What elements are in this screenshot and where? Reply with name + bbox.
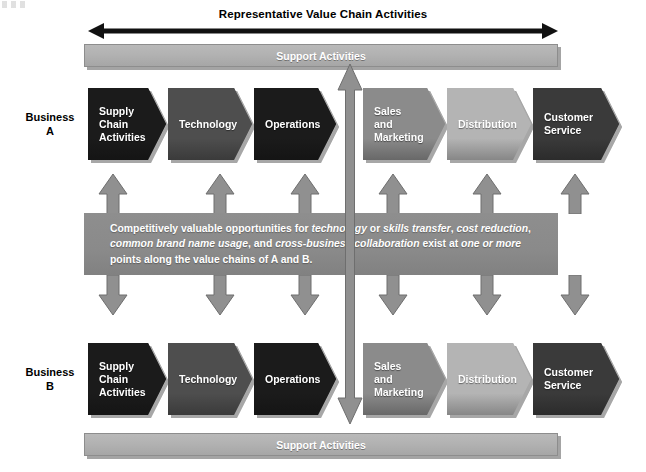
chevron-label: CustomerService [533,366,613,392]
connector-arrow-up-icon [205,174,235,214]
chevron-label: SupplyChainActivities [88,360,166,399]
chevron-label-line: Chain [99,118,128,130]
chevron-label: Technology [168,373,257,386]
txt-i6: one or more [461,238,521,249]
connector-arrow-up-icon [290,174,320,214]
connector-arrow-down-icon [378,275,408,315]
txt-p5: , and [248,238,275,249]
txt-p6: exist at [420,238,462,249]
chevron-label-line: and [374,118,393,130]
txt-i3: cost reduction [456,223,528,234]
connector-arrow-down-icon [205,275,235,315]
value-chain-activity-chevron: Distribution [447,343,531,415]
chevron-label-line: Operations [265,373,320,385]
value-chain-activity-chevron: Technology [168,343,252,415]
value-chain-activity-chevron: CustomerService [533,343,619,415]
chevron-label-line: Distribution [458,373,517,385]
chevron-label: SalesandMarketing [363,360,444,399]
shared-opportunity-text: Competitively valuable opportunities for… [110,221,532,268]
connector-arrow-up-icon [98,174,128,214]
chevron-label-line: Activities [99,131,146,143]
connector-arrow-up-icon [378,174,408,214]
connector-arrow-up-icon [560,174,590,214]
value-chain-activity-chevron: Operations [254,343,336,415]
value-chain-activity-chevron: Technology [168,88,252,160]
chevron-label: SalesandMarketing [363,105,444,144]
chevron-label: CustomerService [533,111,613,137]
txt-p2: or [367,223,383,234]
chevron-label-line: Chain [99,373,128,385]
shared-opportunity-box: Competitively valuable opportunities for… [84,213,558,275]
value-chain-activity-chevron: SupplyChainActivities [88,343,166,415]
horizontal-double-arrow-icon [88,22,558,40]
value-chain-activity-chevron: Operations [254,88,336,160]
connector-arrow-down-icon [472,275,502,315]
support-activities-label-bottom: Support Activities [276,439,365,451]
chevron-label-line: Customer [544,366,593,378]
page-title: Representative Value Chain Activities [0,8,646,20]
chevron-label-line: Marketing [374,386,424,398]
chevron-label-line: Customer [544,111,593,123]
chevron-label-line: Marketing [374,131,424,143]
chevron-label-line: Technology [179,373,237,385]
chevron-label: Operations [254,118,340,131]
chevron-label-line: Operations [265,118,320,130]
chevron-label-line: Distribution [458,118,517,130]
chevron-label: Operations [254,373,340,386]
scan-artifact [2,1,28,8]
chevron-label-line: Activities [99,386,146,398]
chevron-label-line: Supply [99,105,134,117]
chevron-label-line: Sales [374,360,401,372]
txt-i4: common brand name usage [110,238,248,249]
value-chain-activity-chevron: SalesandMarketing [363,88,445,160]
support-activities-bar-bottom: Support Activities [84,433,558,456]
central-vertical-double-arrow-icon [337,64,363,424]
chevron-label-line: Sales [374,105,401,117]
support-activities-label-top: Support Activities [276,50,365,62]
chevron-label-line: and [374,373,393,385]
value-chain-activity-chevron: SalesandMarketing [363,343,445,415]
value-chain-diagram: Representative Value Chain Activities Su… [0,0,646,472]
business-a-value-chain-row: SupplyChainActivitiesTechnologyOperation… [0,88,646,160]
chevron-label-line: Service [544,379,581,391]
support-activities-bar-top: Support Activities [84,44,558,67]
connector-arrow-down-icon [560,275,590,315]
chevron-label-line: Service [544,124,581,136]
txt-p4: , [528,223,531,234]
value-chain-activity-chevron: SupplyChainActivities [88,88,166,160]
connector-arrow-down-icon [98,275,128,315]
connector-arrow-up-icon [472,174,502,214]
value-chain-activity-chevron: CustomerService [533,88,619,160]
txt-p7: points along the value chains of A and B… [110,254,312,265]
txt-p1: Competitively valuable opportunities for [110,223,312,234]
connector-arrow-down-icon [290,275,320,315]
chevron-label: Technology [168,118,257,131]
chevron-label: Distribution [447,118,537,131]
business-b-value-chain-row: SupplyChainActivitiesTechnologyOperation… [0,343,646,415]
value-chain-activity-chevron: Distribution [447,88,531,160]
chevron-label: Distribution [447,373,537,386]
chevron-label-line: Technology [179,118,237,130]
chevron-label-line: Supply [99,360,134,372]
chevron-label: SupplyChainActivities [88,105,166,144]
txt-i2: skills transfer [383,223,451,234]
